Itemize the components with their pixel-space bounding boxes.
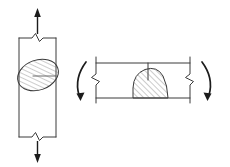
elliptical-flaw	[13, 54, 63, 97]
bottom-tension-arrow	[34, 141, 41, 163]
loading-diagram-svg	[0, 0, 230, 167]
figure-root	[0, 0, 230, 167]
bending-load-panel	[77, 57, 212, 103]
right-break-line	[186, 57, 194, 103]
top-break-line	[19, 34, 56, 42]
right-moment-arrow	[202, 62, 212, 101]
left-break-line	[92, 57, 100, 103]
bottom-break-line	[19, 133, 56, 141]
top-tension-arrow	[34, 8, 41, 34]
left-moment-arrow	[77, 62, 87, 101]
axial-tension-panel	[13, 8, 63, 163]
dome-flaw	[133, 68, 168, 98]
